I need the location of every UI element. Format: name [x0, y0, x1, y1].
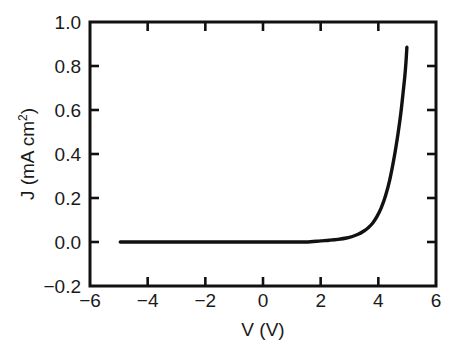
data-series-line — [120, 47, 407, 242]
y-tick-label: 0.6 — [55, 100, 81, 121]
x-tick-label: 2 — [315, 290, 326, 311]
y-tick-label: 1.0 — [55, 12, 81, 33]
y-axis-title-prefix: J (mA cm — [17, 121, 38, 200]
jv-curve-chart: −6−4−20246 −0.20.00.20.40.60.81.0 V (V) … — [0, 0, 462, 346]
y-tick-label: 0.2 — [55, 188, 81, 209]
x-tick-label: −2 — [194, 290, 216, 311]
x-tick-label: 4 — [373, 290, 384, 311]
x-tick-label: 0 — [258, 290, 269, 311]
x-tick-label: −4 — [137, 290, 159, 311]
plot-frame — [90, 22, 436, 286]
y-tick-label: 0.4 — [55, 144, 82, 165]
chart-figure: −6−4−20246 −0.20.00.20.40.60.81.0 V (V) … — [0, 0, 462, 346]
x-tick-label: 6 — [431, 290, 442, 311]
y-tick-label: −0.2 — [43, 276, 81, 297]
x-axis-title: V (V) — [241, 319, 284, 340]
x-tick-label: −6 — [79, 290, 101, 311]
y-axis-title: J (mA cm2) — [16, 108, 38, 200]
y-axis-ticks — [90, 66, 436, 242]
y-tick-label: 0.0 — [55, 232, 81, 253]
x-axis-ticks — [148, 22, 379, 286]
y-tick-label: 0.8 — [55, 56, 81, 77]
y-axis-tick-labels: −0.20.00.20.40.60.81.0 — [43, 12, 81, 297]
x-axis-tick-labels: −6−4−20246 — [79, 290, 441, 311]
y-axis-title-suffix: ) — [17, 108, 38, 114]
